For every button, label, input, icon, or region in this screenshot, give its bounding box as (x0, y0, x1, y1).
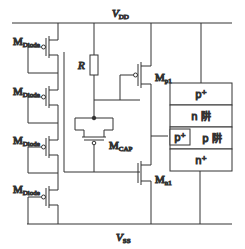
mp1-label: Mp1 (155, 71, 172, 85)
layer-n-plus-label: n⁺ (195, 155, 207, 166)
layer-p-plus-label: p⁺ (195, 89, 207, 100)
layer-p-well-label: p 阱 (202, 132, 222, 144)
mdiode-2-label: MDiode (13, 85, 40, 99)
esd-clamp-circuit-diagram: VDD VSS R MDiode MDiode MDiode MDiode MC… (0, 0, 245, 249)
layer-n-well-label: n 阱 (191, 110, 211, 122)
mcap-label: MCAP (109, 139, 133, 153)
scr-stack (170, 23, 232, 224)
resistor-label: R (77, 59, 85, 71)
mdiode-4-label: MDiode (13, 183, 40, 197)
mdiode-3-label: MDiode (13, 134, 40, 148)
mn1-label: Mn1 (155, 173, 172, 187)
resistor-symbol (90, 55, 98, 75)
vss-label: VSS (116, 231, 131, 245)
inner-p-plus-label: p⁺ (174, 132, 186, 143)
vdd-label: VDD (112, 7, 129, 21)
mn1-transistor (138, 136, 151, 224)
mdiode-1-label: MDiode (13, 35, 40, 49)
